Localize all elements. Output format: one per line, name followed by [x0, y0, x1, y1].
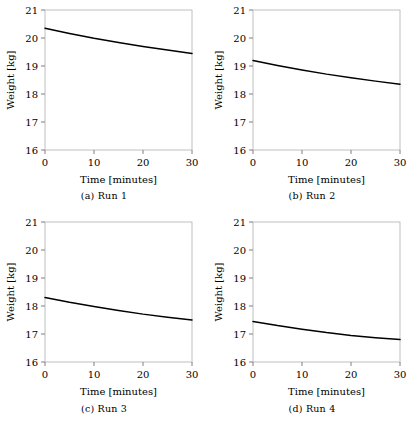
- x-axis-title: Time [minutes]: [80, 386, 157, 397]
- y-axis-title: Weight [kg]: [213, 50, 224, 109]
- plot-frame: [45, 10, 192, 150]
- x-tick-label: 10: [88, 369, 101, 380]
- x-tick-label: 30: [186, 369, 199, 380]
- y-tick-label: 19: [233, 61, 246, 72]
- x-tick-label: 10: [88, 157, 101, 168]
- y-axis-title: Weight [kg]: [213, 262, 224, 321]
- y-axis-title: Weight [kg]: [5, 262, 16, 321]
- plot-frame: [253, 10, 400, 150]
- plot-frame: [45, 222, 192, 362]
- y-tick-label: 16: [233, 357, 246, 368]
- figure-four-run-weight-curves: 1617181920210102030Time [minutes]Weight …: [0, 0, 416, 425]
- plot-area-run-2: 1617181920210102030Time [minutes]Weight …: [208, 0, 416, 190]
- panel-run-3: 1617181920210102030Time [minutes]Weight …: [0, 212, 208, 425]
- axes-run-2: 1617181920210102030Time [minutes]Weight …: [213, 5, 406, 186]
- y-tick-label: 20: [233, 33, 246, 44]
- y-tick-label: 17: [25, 329, 38, 340]
- x-tick-label: 20: [345, 369, 358, 380]
- y-tick-label: 17: [233, 329, 246, 340]
- y-tick-label: 21: [25, 5, 38, 16]
- panel-caption-run-1: (a) Run 1: [0, 190, 208, 201]
- data-curve: [253, 321, 400, 339]
- panel-caption-run-3: (c) Run 3: [0, 403, 208, 414]
- x-tick-label: 30: [394, 157, 407, 168]
- plot-area-run-4: 1617181920210102030Time [minutes]Weight …: [208, 212, 416, 402]
- y-tick-label: 20: [25, 245, 38, 256]
- x-tick-label: 10: [296, 369, 309, 380]
- data-curve: [45, 28, 192, 53]
- y-tick-label: 17: [25, 117, 38, 128]
- y-tick-label: 19: [25, 273, 38, 284]
- panel-caption-run-4: (d) Run 4: [208, 403, 416, 414]
- y-tick-label: 16: [233, 145, 246, 156]
- y-tick-label: 19: [25, 61, 38, 72]
- x-axis-title: Time [minutes]: [80, 174, 157, 185]
- y-tick-label: 17: [233, 117, 246, 128]
- y-tick-label: 19: [233, 273, 246, 284]
- panel-run-1: 1617181920210102030Time [minutes]Weight …: [0, 0, 208, 212]
- x-tick-label: 20: [137, 157, 150, 168]
- plot-area-run-3: 1617181920210102030Time [minutes]Weight …: [0, 212, 208, 402]
- y-tick-label: 21: [25, 217, 38, 228]
- data-curve: [45, 298, 192, 320]
- y-tick-label: 20: [25, 33, 38, 44]
- y-tick-label: 20: [233, 245, 246, 256]
- axes-run-3: 1617181920210102030Time [minutes]Weight …: [5, 217, 198, 398]
- x-tick-label: 0: [42, 369, 48, 380]
- y-axis-title: Weight [kg]: [5, 50, 16, 109]
- panel-run-2: 1617181920210102030Time [minutes]Weight …: [208, 0, 416, 212]
- data-curve: [253, 60, 400, 84]
- x-tick-label: 10: [296, 157, 309, 168]
- y-tick-label: 18: [25, 301, 38, 312]
- axes-run-1: 1617181920210102030Time [minutes]Weight …: [5, 5, 198, 186]
- panel-caption-run-2: (b) Run 2: [208, 190, 416, 201]
- x-axis-title: Time [minutes]: [288, 386, 365, 397]
- y-tick-label: 21: [233, 217, 246, 228]
- plot-area-run-1: 1617181920210102030Time [minutes]Weight …: [0, 0, 208, 190]
- y-tick-label: 16: [25, 357, 38, 368]
- x-tick-label: 20: [137, 369, 150, 380]
- x-axis-title: Time [minutes]: [288, 174, 365, 185]
- axes-run-4: 1617181920210102030Time [minutes]Weight …: [213, 217, 406, 398]
- y-tick-label: 18: [233, 301, 246, 312]
- x-tick-label: 0: [42, 157, 48, 168]
- x-tick-label: 30: [186, 157, 199, 168]
- x-tick-label: 30: [394, 369, 407, 380]
- plot-frame: [253, 222, 400, 362]
- y-tick-label: 18: [25, 89, 38, 100]
- panel-run-4: 1617181920210102030Time [minutes]Weight …: [208, 212, 416, 425]
- x-tick-label: 0: [250, 157, 256, 168]
- x-tick-label: 20: [345, 157, 358, 168]
- y-tick-label: 21: [233, 5, 246, 16]
- y-tick-label: 18: [233, 89, 246, 100]
- y-tick-label: 16: [25, 145, 38, 156]
- x-tick-label: 0: [250, 369, 256, 380]
